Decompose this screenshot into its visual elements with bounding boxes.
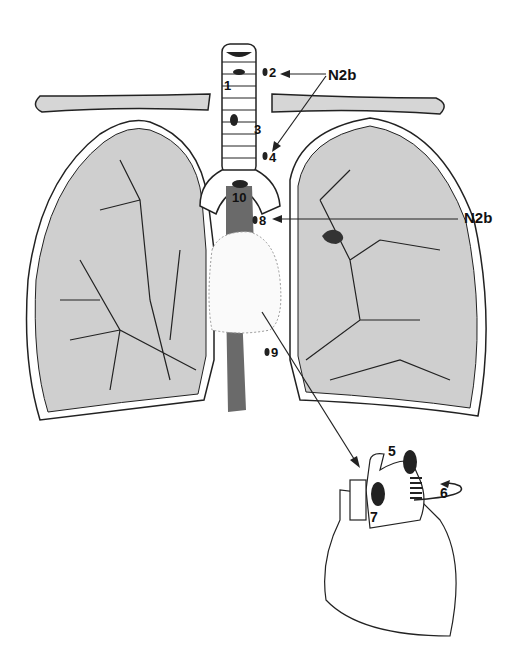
label-8: 8 [259, 213, 266, 228]
node-9 [265, 348, 270, 356]
label-7: 7 [370, 509, 378, 525]
label-1: 1 [224, 78, 231, 93]
thorax-diagram: 1 2 3 4 8 9 10 N2b N2b 5 6 7 [0, 0, 532, 646]
heart-in-situ [209, 232, 281, 333]
label-3: 3 [254, 122, 261, 137]
right-lung [290, 118, 486, 416]
node-3 [230, 114, 238, 126]
label-6: 6 [440, 485, 448, 501]
node-1 [233, 69, 245, 75]
label-9: 9 [271, 345, 278, 360]
node-4 [263, 152, 268, 160]
annotation-n2b-right: N2b [464, 209, 492, 226]
node-2 [263, 68, 268, 76]
label-4: 4 [269, 150, 277, 165]
node-10 [232, 180, 248, 188]
annotation-n2b-top: N2b [328, 66, 356, 83]
right-clavicle [272, 94, 444, 114]
node-7 [371, 482, 385, 506]
node-5 [403, 450, 417, 474]
label-2: 2 [269, 65, 276, 80]
label-5: 5 [388, 443, 396, 459]
left-clavicle [35, 94, 210, 112]
left-lung [27, 121, 215, 421]
label-10: 10 [232, 190, 246, 205]
heart-detail [325, 450, 462, 636]
node-8 [253, 216, 258, 224]
